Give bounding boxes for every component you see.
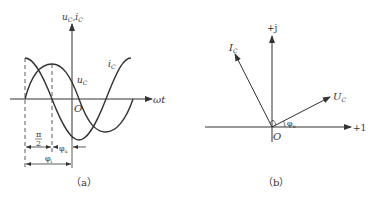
dim-phi-i-label: φi bbox=[45, 154, 53, 164]
real-axis-label: +1 bbox=[353, 123, 366, 133]
phasor-i-c bbox=[235, 54, 272, 127]
x-axis-label: ωt bbox=[153, 94, 166, 105]
dim-phi-u-label: φu bbox=[59, 144, 69, 154]
curve-u-label: uC bbox=[77, 75, 88, 86]
y-axis-label: uC,iC bbox=[62, 12, 83, 23]
dim-pi-den: 2 bbox=[36, 139, 41, 148]
imag-axis-label: +j bbox=[267, 23, 277, 33]
caption-a: （a） bbox=[71, 177, 97, 188]
phasor-diagram: +j +1 O IC UC φu （b） bbox=[205, 23, 366, 188]
phasor-u-label: UC bbox=[333, 91, 346, 103]
waveform-diagram: uC,iC ωt O iC uC π 2 φu φi （a） bbox=[10, 12, 166, 188]
phasor-i-label: IC bbox=[228, 42, 238, 54]
dim-pi-num: π bbox=[36, 130, 41, 139]
phasor-u-c bbox=[272, 97, 330, 127]
origin-label: O bbox=[74, 103, 82, 114]
origin-label-b: O bbox=[273, 131, 281, 142]
caption-b: （b） bbox=[263, 177, 289, 188]
angle-label: φu bbox=[287, 119, 297, 129]
angle-arc bbox=[284, 121, 286, 127]
figure-canvas: uC,iC ωt O iC uC π 2 φu φi （a） +j +1 O I… bbox=[0, 0, 377, 204]
curve-i-label: iC bbox=[108, 59, 116, 70]
